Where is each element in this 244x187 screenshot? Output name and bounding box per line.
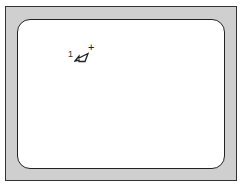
figure-canvas: 1 +	[0, 0, 244, 187]
monitor-bezel	[5, 6, 237, 181]
cursor-index-label: 1	[68, 50, 73, 59]
monitor-screen	[17, 19, 225, 169]
plus-icon: +	[88, 42, 94, 53]
